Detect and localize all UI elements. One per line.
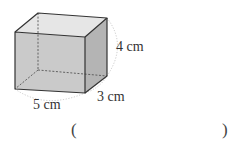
width-label: 3 cm — [97, 90, 125, 104]
answer-close-paren: ) — [222, 121, 228, 138]
answer-open-paren: ( — [71, 121, 77, 138]
front-face — [15, 32, 85, 93]
answer-blank[interactable] — [82, 121, 218, 139]
length-label: 5 cm — [33, 98, 61, 112]
height-label: 4 cm — [116, 40, 144, 54]
